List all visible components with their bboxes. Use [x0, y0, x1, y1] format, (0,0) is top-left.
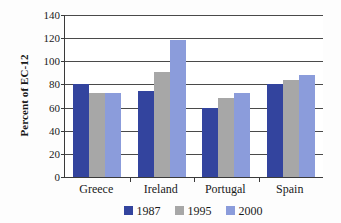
y-axis-tick	[61, 177, 65, 178]
bar	[170, 40, 186, 177]
bar	[283, 80, 299, 177]
bar	[89, 93, 105, 177]
x-axis-category-labels: GreeceIrelandPortugalSpain	[64, 181, 322, 197]
bar	[73, 84, 89, 177]
y-axis-tick	[61, 131, 65, 132]
y-axis-tick-label: 20	[30, 149, 60, 160]
y-axis-tick	[61, 38, 65, 39]
plot-area	[64, 15, 323, 178]
x-axis-category-label: Ireland	[126, 181, 196, 197]
bar	[267, 84, 283, 177]
y-axis-tick	[61, 108, 65, 109]
y-axis-tick	[61, 61, 65, 62]
y-axis-tick-label: 120	[30, 33, 60, 44]
y-axis-tick-labels: 020406080100120140	[30, 15, 60, 177]
bar	[202, 108, 218, 177]
bar-group	[267, 15, 315, 177]
legend-item[interactable]: 1987	[124, 205, 161, 217]
y-axis-tick	[61, 154, 65, 155]
y-axis-tick	[61, 84, 65, 85]
bar	[105, 93, 121, 177]
x-axis-category-label: Portugal	[190, 181, 260, 197]
y-axis-tick-label: 100	[30, 56, 60, 67]
bar-group	[202, 15, 250, 177]
y-axis-tick-label: 40	[30, 126, 60, 137]
x-axis-category-label: Spain	[255, 181, 325, 197]
y-axis-tick-label: 80	[30, 79, 60, 90]
bar	[138, 91, 154, 177]
legend-swatch-icon	[175, 206, 184, 215]
legend-label: 1987	[137, 205, 161, 217]
bar-group	[73, 15, 121, 177]
bar-chart: Percent of EC-12 020406080100120140 Gree…	[0, 0, 341, 223]
y-axis-tick-label: 140	[30, 10, 60, 21]
legend-swatch-icon	[226, 206, 235, 215]
bar	[299, 75, 315, 177]
legend-label: 1995	[188, 205, 212, 217]
bar	[154, 72, 170, 177]
legend-item[interactable]: 2000	[226, 205, 263, 217]
y-axis-tick-label: 60	[30, 103, 60, 114]
legend-item[interactable]: 1995	[175, 205, 212, 217]
y-axis-tick	[61, 15, 65, 16]
bar	[218, 98, 234, 177]
bar	[234, 93, 250, 177]
bar-group	[138, 15, 186, 177]
legend-swatch-icon	[124, 206, 133, 215]
x-axis-category-label: Greece	[61, 181, 131, 197]
chart-legend: 198719952000	[64, 203, 322, 218]
legend-label: 2000	[239, 205, 263, 217]
y-axis-tick-label: 0	[30, 172, 60, 183]
